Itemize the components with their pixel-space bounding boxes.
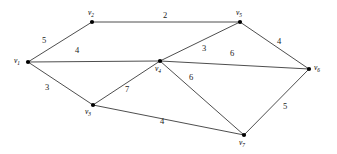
graph-canvas <box>0 0 337 154</box>
graph-edge-v5-v6 <box>240 22 309 69</box>
graph-node-label-v5: v5 <box>236 9 242 17</box>
graph-node-v6 <box>307 67 311 71</box>
graph-node-label-v4: v4 <box>155 65 161 73</box>
edge-weight-v1-v3: 3 <box>45 83 49 92</box>
node-label-subscript-v2: 2 <box>91 12 94 18</box>
edge-weight-v4-v6: 6 <box>230 49 234 58</box>
edge-weight-v3-v7: 4 <box>160 117 164 126</box>
graph-node-v7 <box>242 133 246 137</box>
graph-node-v1 <box>26 60 30 64</box>
graph-node-label-v1: v1 <box>14 57 20 65</box>
edge-weight-v3-v4: 7 <box>125 85 129 94</box>
node-label-subscript-v6: 6 <box>317 67 320 73</box>
graph-edges-group <box>28 22 309 135</box>
graph-node-v3 <box>91 103 95 107</box>
node-label-subscript-v1: 1 <box>17 60 20 66</box>
graph-node-label-v7: v7 <box>239 139 245 147</box>
edge-weight-v4-v7: 6 <box>189 73 193 82</box>
edge-weight-v2-v5: 2 <box>163 11 167 20</box>
edge-weight-v1-v2: 5 <box>42 36 46 45</box>
edge-weight-v5-v6: 4 <box>277 37 281 46</box>
graph-edge-v3-v7 <box>93 105 244 135</box>
graph-edge-v6-v7 <box>244 69 309 135</box>
node-label-subscript-v3: 3 <box>88 111 91 117</box>
graph-node-v2 <box>90 20 94 24</box>
graph-edge-v4-v5 <box>160 22 240 61</box>
graph-edge-v1-v2 <box>28 22 92 62</box>
graph-node-label-v3: v3 <box>85 108 91 116</box>
graph-node-v4 <box>158 59 162 63</box>
node-label-subscript-v7: 7 <box>242 142 245 148</box>
graph-edge-v4-v6 <box>160 61 309 69</box>
edge-weight-v4-v5: 3 <box>202 44 206 53</box>
graph-edge-v1-v4 <box>28 61 160 62</box>
graph-edge-v1-v3 <box>28 62 93 105</box>
graph-nodes-group <box>26 20 311 137</box>
edge-weight-v6-v7: 5 <box>283 102 287 111</box>
graph-node-label-v6: v6 <box>314 64 320 72</box>
edge-weight-v1-v4: 4 <box>75 46 79 55</box>
graph-node-v5 <box>238 20 242 24</box>
graph-node-label-v2: v2 <box>88 9 94 17</box>
node-label-subscript-v4: 4 <box>158 68 161 74</box>
graph-edge-v3-v4 <box>93 61 160 105</box>
weighted-graph-figure: v1v2v3v4v5v6v7 52433467645 <box>0 0 337 154</box>
node-label-subscript-v5: 5 <box>239 12 242 18</box>
graph-edge-v4-v7 <box>160 61 244 135</box>
